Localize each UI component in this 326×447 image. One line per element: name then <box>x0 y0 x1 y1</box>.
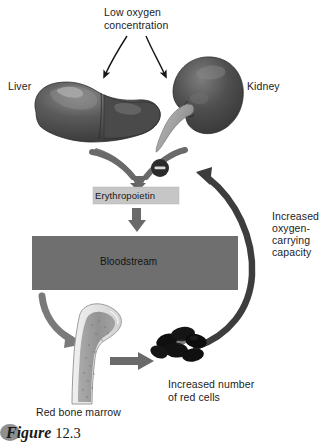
label-erythropoietin: Erythropoietin <box>95 190 155 203</box>
figure-caption-word: Figure <box>6 424 51 442</box>
red-blood-cells-cluster <box>148 325 208 363</box>
bone-marrow-organ <box>72 304 121 404</box>
label-red-bone-marrow: Red bone marrow <box>36 406 121 419</box>
label-kidney: Kidney <box>247 80 280 93</box>
erythropoietin-feedback-diagram: Low oxygen concentration Liver Kidney Er… <box>0 0 326 447</box>
arrow-bone-marrow-to-red-cells <box>110 352 154 370</box>
label-increased-number-of-red-cells: Increased number of red cells <box>168 378 254 403</box>
label-increased-oxygen-carrying-capacity: Increased oxygen- carrying capacity <box>272 210 319 258</box>
liver-organ <box>35 82 160 142</box>
arrow-erythropoietin-to-bloodstream <box>128 208 146 232</box>
arrow-low-oxygen-to-liver <box>105 36 127 75</box>
negative-feedback-marker <box>151 159 169 177</box>
figure-caption-number: 12.3 <box>55 425 80 442</box>
kidney-organ <box>156 57 243 152</box>
label-low-oxygen-concentration: Low oxygen concentration <box>104 6 168 31</box>
label-liver: Liver <box>8 80 31 93</box>
label-bloodstream: Bloodstream <box>100 256 157 269</box>
figure-caption: Figure 12.3 <box>6 424 81 446</box>
arrow-low-oxygen-to-kidney <box>146 36 165 75</box>
